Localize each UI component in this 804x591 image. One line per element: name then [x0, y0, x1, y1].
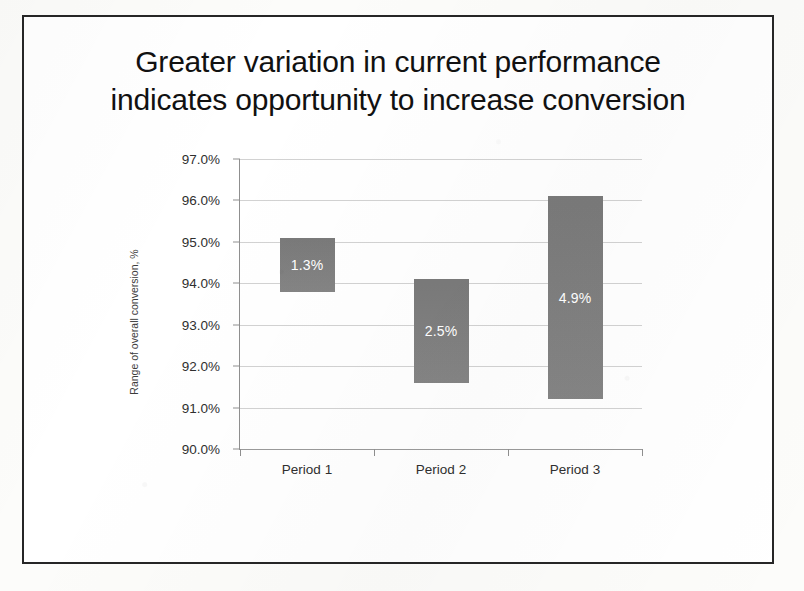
bar-value-label: 4.9% [548, 290, 603, 306]
x-axis-tick-mark [240, 449, 241, 456]
y-axis-tick-mark [233, 241, 240, 242]
range-bar[interactable]: 1.3% [280, 238, 335, 292]
y-axis-tick-mark [233, 159, 240, 160]
x-axis-tick-mark [508, 449, 509, 456]
x-axis-category-labels: Period 1Period 2Period 3 [240, 462, 642, 486]
y-axis-tick-label: 95.0% [182, 234, 220, 249]
page-title-line-2: indicates opportunity to increase conver… [24, 81, 772, 119]
y-axis-tick-mark [233, 200, 240, 201]
x-axis-tick-mark [374, 449, 375, 456]
y-axis-tick-label: 91.0% [182, 400, 220, 415]
page-title-line-1: Greater variation in current performance [24, 43, 772, 81]
range-bar-chart: Range of overall conversion, % 97.0%96.0… [132, 159, 728, 519]
x-axis-category-label: Period 3 [550, 462, 600, 477]
range-bar[interactable]: 4.9% [548, 196, 603, 399]
y-axis-tick-label: 92.0% [182, 359, 220, 374]
bar-value-label: 2.5% [414, 323, 469, 339]
x-axis-category-label: Period 2 [416, 462, 466, 477]
x-axis-category-label: Period 1 [282, 462, 332, 477]
bar-value-label: 1.3% [280, 257, 335, 273]
y-axis-tick-label: 97.0% [182, 152, 220, 167]
y-axis-tick-label: 96.0% [182, 193, 220, 208]
plot-area: 1.3%2.5%4.9% [240, 159, 642, 449]
page-title: Greater variation in current performance… [24, 43, 772, 119]
y-axis-tick-mark [233, 324, 240, 325]
y-axis-tick-mark [233, 407, 240, 408]
y-axis-tick-label: 93.0% [182, 317, 220, 332]
gridline [240, 159, 642, 160]
y-axis-tick-mark [233, 449, 240, 450]
y-axis-tick-mark [233, 366, 240, 367]
y-axis-tick-label: 90.0% [182, 442, 220, 457]
y-axis-tick-label: 94.0% [182, 276, 220, 291]
y-axis-tick-mark [233, 283, 240, 284]
gridline [240, 449, 642, 450]
range-bar[interactable]: 2.5% [414, 279, 469, 383]
y-axis-tick-labels: 97.0%96.0%95.0%94.0%93.0%92.0%91.0%90.0% [142, 159, 226, 459]
slide-frame: Greater variation in current performance… [22, 15, 774, 564]
gridline [240, 408, 642, 409]
scanned-page: Greater variation in current performance… [0, 0, 804, 591]
x-axis-tick-mark [642, 449, 643, 456]
